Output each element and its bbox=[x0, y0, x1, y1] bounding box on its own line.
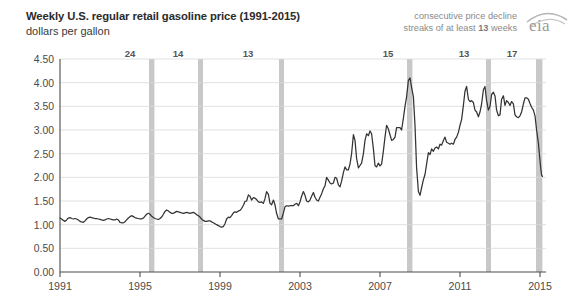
axis-units-label: dollars per gallon bbox=[26, 25, 110, 37]
x-axis-tick-label: 2003 bbox=[288, 280, 312, 292]
x-axis-tick-label: 1991 bbox=[48, 280, 72, 292]
chart-header: Weekly U.S. regular retail gasoline pric… bbox=[0, 0, 579, 48]
legend-note: consecutive price decline streaks of at … bbox=[337, 11, 517, 34]
decline-band-week-count: 14 bbox=[173, 48, 184, 59]
page-title: Weekly U.S. regular retail gasoline pric… bbox=[26, 10, 300, 22]
x-axis-tick-label: 2011 bbox=[449, 280, 472, 292]
decline-band-week-count: 24 bbox=[125, 48, 136, 59]
x-axis-tick-label: 2007 bbox=[368, 280, 392, 292]
decline-band-week-count: 17 bbox=[507, 48, 518, 59]
gasoline-price-chart: Weekly U.S. regular retail gasoline pric… bbox=[0, 0, 579, 308]
decline-band-week-count: 13 bbox=[459, 48, 470, 59]
x-axis-tick-label: 2015 bbox=[528, 280, 552, 292]
eia-logo: eia bbox=[523, 8, 573, 38]
decline-band-week-count: 13 bbox=[243, 48, 254, 59]
legend-note-prefix: streaks of at least bbox=[404, 23, 479, 33]
plot-area: 4.504.003.503.002.502.001.501.000.500.00… bbox=[0, 48, 579, 308]
x-axis-labels: 1991199519992003200720112015241413151317 bbox=[0, 48, 579, 308]
legend-note-weeks: 13 bbox=[478, 23, 488, 33]
eia-logo-text: eia bbox=[529, 16, 550, 36]
legend-note-line2: streaks of at least 13 weeks bbox=[337, 23, 517, 35]
legend-note-line1: consecutive price decline bbox=[337, 11, 517, 23]
legend-note-suffix: weeks bbox=[488, 23, 517, 33]
decline-band-week-count: 15 bbox=[383, 48, 394, 59]
x-axis-tick-label: 1995 bbox=[128, 280, 152, 292]
x-axis-tick-label: 1999 bbox=[208, 280, 232, 292]
